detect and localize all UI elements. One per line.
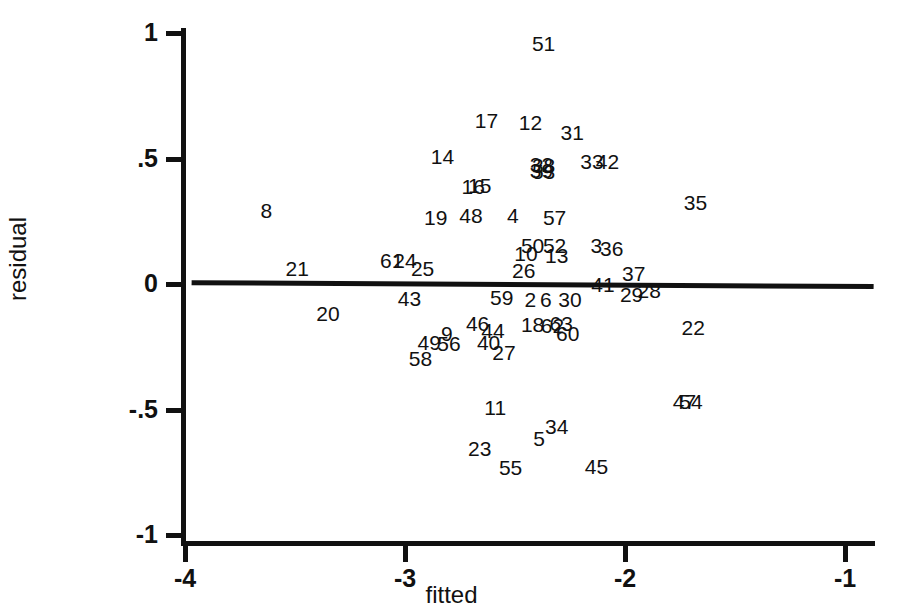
y-axis-tick bbox=[166, 157, 182, 162]
y-axis-tick-label: 1 bbox=[110, 20, 158, 45]
y-axis-tick bbox=[166, 408, 182, 413]
data-point-label: 55 bbox=[499, 457, 522, 478]
data-point-label: 59 bbox=[490, 286, 513, 307]
x-axis-tick bbox=[183, 546, 188, 562]
data-point-label: 51 bbox=[532, 33, 555, 54]
data-point-label: 48 bbox=[459, 204, 482, 225]
y-axis-tick bbox=[166, 31, 182, 36]
data-point-label: 56 bbox=[437, 332, 460, 353]
scatter-plot-figure: 1.50-.5-1 -4-3-2-1 511712311432383953334… bbox=[0, 0, 903, 613]
y-axis-tick bbox=[166, 282, 182, 287]
data-point-label: 53 bbox=[532, 161, 555, 182]
data-point-label: 26 bbox=[512, 260, 535, 281]
data-point-label: 13 bbox=[545, 245, 568, 266]
y-axis-tick-label: 0 bbox=[110, 271, 158, 296]
y-axis-tick-label: .5 bbox=[110, 146, 158, 171]
data-point-label: 30 bbox=[558, 289, 581, 310]
y-axis-title: residual bbox=[4, 199, 32, 319]
data-point-label: 6 bbox=[540, 289, 552, 310]
data-point-label: 54 bbox=[679, 390, 702, 411]
data-point-label: 2 bbox=[525, 289, 537, 310]
data-point-label: 11 bbox=[484, 396, 506, 417]
data-point-label: 34 bbox=[545, 415, 568, 436]
y-axis-tick bbox=[166, 533, 182, 538]
data-point-label: 19 bbox=[424, 207, 447, 228]
data-point-label: 5 bbox=[533, 428, 545, 449]
data-point-label: 41 bbox=[591, 274, 614, 295]
data-point-label: 42 bbox=[596, 151, 619, 172]
data-point-label: 15 bbox=[468, 174, 491, 195]
data-point-label: 17 bbox=[475, 109, 498, 130]
data-point-label: 57 bbox=[543, 207, 566, 228]
data-point-label: 14 bbox=[431, 145, 454, 166]
data-point-label: 22 bbox=[682, 316, 705, 337]
x-axis-tick bbox=[403, 546, 408, 562]
data-point-label: 36 bbox=[600, 237, 623, 258]
data-point-label: 43 bbox=[398, 287, 421, 308]
data-point-label: 58 bbox=[409, 348, 432, 369]
data-point-label: 4 bbox=[507, 204, 519, 225]
data-point-label: 27 bbox=[492, 341, 515, 362]
y-axis-tick-label: -1 bbox=[110, 522, 158, 547]
data-point-label: 20 bbox=[316, 302, 339, 323]
data-point-label: 31 bbox=[561, 122, 584, 143]
y-axis-tick-label: -.5 bbox=[110, 397, 158, 422]
data-point-label: 21 bbox=[286, 257, 309, 278]
data-point-label: 12 bbox=[519, 112, 542, 133]
data-point-label: 45 bbox=[585, 455, 608, 476]
x-axis-title: fitted bbox=[0, 581, 903, 609]
data-point-label: 60 bbox=[556, 322, 579, 343]
data-point-label: 25 bbox=[411, 257, 434, 278]
data-point-label: 35 bbox=[684, 192, 707, 213]
data-point-label: 29 bbox=[620, 284, 643, 305]
x-axis-tick bbox=[623, 546, 628, 562]
x-axis-line bbox=[181, 541, 875, 546]
data-point-label: 23 bbox=[468, 438, 491, 459]
x-axis-tick bbox=[843, 546, 848, 562]
data-point-label: 8 bbox=[261, 199, 273, 220]
